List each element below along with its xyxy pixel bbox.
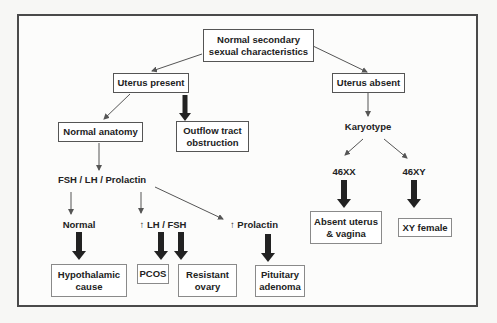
node-pituitary-adenoma: Pituitary adenoma — [255, 265, 305, 297]
node-outflow-tract-obstruction: Outflow tract obstruction — [176, 121, 249, 152]
node-normal-secondary-sexual-characteristics: Normal secondary sexual characteristics — [203, 29, 314, 62]
node-normal-anatomy: Normal anatomy — [58, 122, 143, 142]
node-karyotype: Karyotype — [333, 119, 403, 135]
node-xy-female: XY female — [398, 218, 452, 237]
node-absent-uterus-vagina: Absent uterus & vagina — [310, 211, 382, 244]
node-normal-result: Normal — [56, 217, 102, 233]
node-46xx: 46XX — [324, 164, 364, 180]
node-resistant-ovary: Resistant ovary — [178, 264, 237, 297]
node-pcos: PCOS — [137, 264, 169, 284]
node-fsh-lh-prolactin: FSH / LH / Prolactin — [52, 172, 152, 188]
node-uterus-absent: Uterus absent — [332, 73, 405, 93]
node-uterus-present: Uterus present — [113, 73, 189, 93]
node-46xy: 46XY — [394, 164, 434, 180]
node-elevated-lh-fsh: ↑ LH / FSH — [132, 217, 194, 233]
node-elevated-prolactin: ↑ Prolactin — [219, 217, 289, 233]
node-hypothalamic-cause: Hypothalamic cause — [51, 264, 127, 297]
